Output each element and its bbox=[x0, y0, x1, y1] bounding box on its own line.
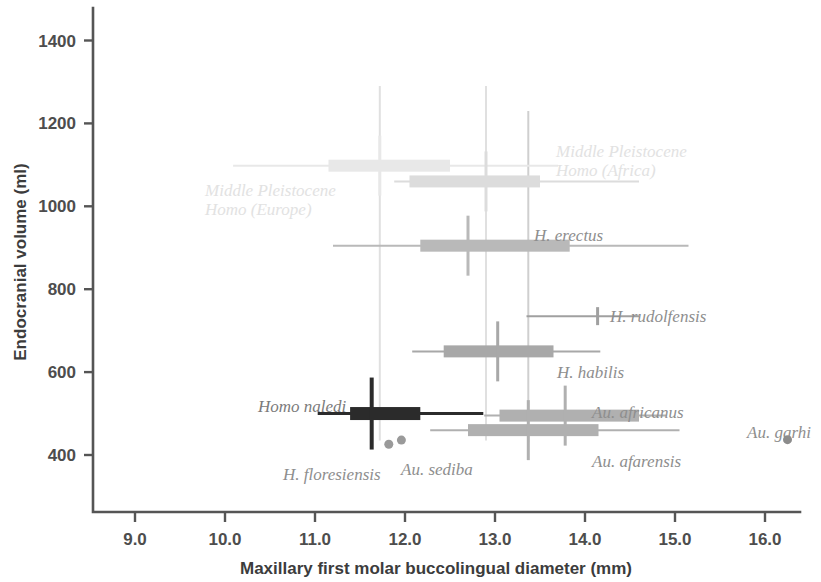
series-label: Middle Pleistocene bbox=[555, 142, 687, 161]
series-label: Au. afarensis bbox=[591, 452, 681, 471]
series-label: Homo (Africa) bbox=[555, 161, 656, 180]
y-axis-tick-label: 800 bbox=[48, 280, 76, 299]
point-label: H. floresiensis bbox=[282, 465, 381, 484]
point-label: Au. garhi bbox=[746, 423, 811, 442]
series-label: Homo naledi bbox=[257, 397, 347, 416]
y-axis-tick-label: 1000 bbox=[38, 197, 76, 216]
x-axis-tick-label: 14.0 bbox=[568, 530, 601, 549]
box-range bbox=[350, 407, 420, 420]
chart-figure: 4006008001000120014009.010.011.012.013.0… bbox=[0, 0, 821, 582]
axis-spine bbox=[93, 8, 800, 512]
box-range bbox=[329, 160, 451, 172]
x-axis-tick-label: 11.0 bbox=[299, 530, 331, 549]
series-label: Middle Pleistocene bbox=[204, 181, 336, 200]
x-axis-tick-label: 12.0 bbox=[388, 530, 421, 549]
x-axis-title: Maxillary first molar buccolingual diame… bbox=[240, 559, 632, 578]
y-axis-tick-label: 600 bbox=[48, 363, 76, 382]
series-label: Au. africanus bbox=[591, 403, 684, 422]
series-label: Homo (Europe) bbox=[204, 200, 312, 219]
y-axis-tick-label: 400 bbox=[48, 446, 76, 465]
x-axis-tick-label: 15.0 bbox=[658, 530, 691, 549]
y-axis-tick-label: 1400 bbox=[38, 32, 76, 51]
reference-lines-layer bbox=[380, 86, 529, 442]
point-label: Au. sediba bbox=[400, 460, 473, 479]
y-axis-tick-label: 1200 bbox=[38, 114, 76, 133]
y-axis-title: Endocranial volume (ml) bbox=[11, 163, 30, 360]
specimen-point bbox=[384, 440, 393, 449]
box-range bbox=[410, 175, 541, 187]
specimen-point bbox=[397, 436, 406, 445]
series-label: H. rudolfensis bbox=[609, 307, 707, 326]
box-range bbox=[468, 424, 599, 436]
points-layer bbox=[384, 435, 792, 449]
series-label: H. habilis bbox=[556, 363, 624, 382]
scatter-box-plot: 4006008001000120014009.010.011.012.013.0… bbox=[0, 0, 821, 582]
x-axis-tick-label: 9.0 bbox=[123, 530, 147, 549]
x-axis-tick-label: 10.0 bbox=[208, 530, 241, 549]
series-label: H. erectus bbox=[533, 226, 604, 245]
x-axis-tick-label: 16.0 bbox=[748, 530, 781, 549]
x-axis-tick-label: 13.0 bbox=[478, 530, 511, 549]
box-whisker-series bbox=[333, 216, 689, 276]
